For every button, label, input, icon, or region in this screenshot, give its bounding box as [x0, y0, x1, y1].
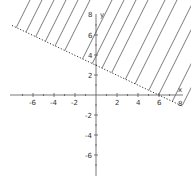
y-tick-label: -2	[85, 112, 92, 120]
x-tick-label: -6	[29, 99, 37, 107]
y-axis-label: y	[100, 11, 104, 19]
axes	[10, 14, 183, 176]
x-tick-label: -4	[50, 99, 58, 107]
y-tick-label: 6	[88, 32, 93, 40]
x-axis-label: x	[178, 86, 182, 94]
x-tick-label: -2	[71, 99, 78, 107]
x-tick-label: 4	[136, 99, 141, 107]
y-tick-label: -4	[85, 132, 93, 140]
inequality-graph: -6 -4 -2 2 4 6 8 8 6 4 2 -2 -4 -6 y x	[0, 0, 191, 181]
boundary-line	[12, 26, 183, 107]
y-tick-label: 8	[88, 11, 92, 19]
y-tick-label: -6	[85, 152, 93, 160]
y-tick-label: 2	[88, 72, 92, 80]
y-tick-label: 4	[88, 52, 93, 60]
x-tick-label: 2	[115, 99, 119, 107]
x-tick-label: 8	[178, 100, 182, 108]
x-tick-label: 6	[157, 99, 162, 107]
